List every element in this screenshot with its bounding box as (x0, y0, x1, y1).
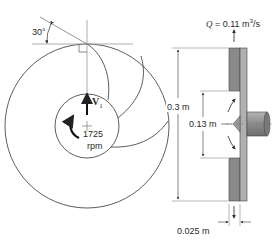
eye-diameter-label: 0.13 m (188, 120, 218, 129)
back-plate (240, 48, 247, 201)
pump-impeller-diagram: 30° V1 1725 rpm Q = 0.11 m3/s 0.3 m 0.13… (0, 0, 272, 244)
rotational-speed-value: 1725 (83, 130, 103, 139)
rotation-arrow-icon (70, 116, 79, 138)
side-view (172, 30, 272, 226)
flow-rate-label: Q = 0.11 m3/s (206, 18, 260, 29)
blade-3 (111, 121, 168, 147)
flow-arrow-down-icon (228, 136, 235, 149)
flow-rate-value: = 0.11 m (215, 19, 250, 29)
angle-arc-icon (47, 24, 51, 43)
outer-diameter-label: 0.3 m (166, 103, 191, 112)
blade-angle-label: 30° (32, 28, 46, 37)
front-view (5, 17, 169, 208)
velocity-subscript: 1 (99, 102, 103, 110)
inlet-velocity-label: V1 (92, 97, 103, 110)
flow-arrow-up-icon (228, 99, 235, 112)
lower-shroud (229, 158, 240, 201)
blade-width-label: 0.025 m (177, 227, 210, 236)
flow-rate-unit: /s (253, 19, 260, 29)
right-angle-marker (79, 44, 87, 52)
upper-shroud (229, 48, 240, 91)
blade-1 (87, 44, 109, 100)
blade-2 (118, 56, 143, 118)
flow-rate-symbol: Q (206, 19, 213, 29)
rotational-speed-unit: rpm (87, 142, 103, 151)
